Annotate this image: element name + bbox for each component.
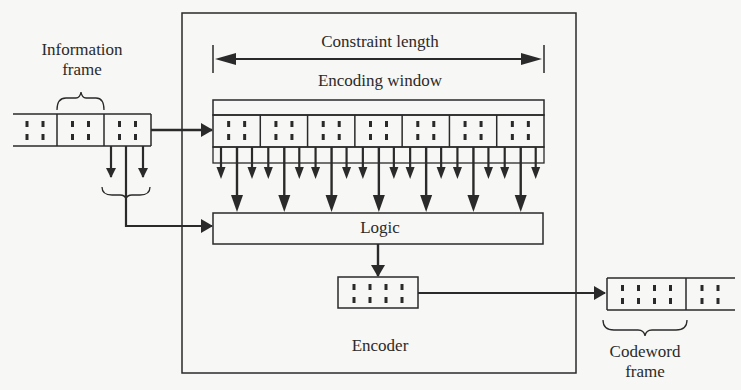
encoding-window-label: Encoding window — [280, 71, 480, 91]
encoding-window-register — [213, 115, 544, 147]
information-frame-label: Information frame — [22, 40, 142, 80]
encoder-label: Encoder — [320, 336, 440, 356]
information-frame-brace — [57, 92, 104, 110]
constraint-length-label: Constraint length — [280, 32, 480, 52]
codeword-frame-brace — [603, 320, 687, 336]
encoding-window-top-strip — [213, 100, 544, 115]
information-frame-label-line1: Information — [22, 40, 142, 60]
encoder-output-register — [338, 277, 418, 308]
codeword-frame-label: Codeword frame — [585, 342, 705, 382]
information-frame-label-line2: frame — [22, 60, 142, 80]
codeword-frame-label-line2: frame — [585, 362, 705, 382]
logic-label: Logic — [330, 218, 430, 238]
codeword-frame-label-line1: Codeword — [585, 342, 705, 362]
info-to-logic-arrow — [126, 146, 212, 226]
